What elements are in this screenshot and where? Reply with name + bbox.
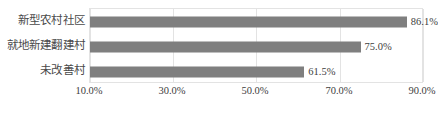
bar-row: 75.0% <box>90 34 422 59</box>
bar-row: 86.1% <box>90 9 422 34</box>
category-axis: 新型农村社区 就地新建翻建村 未改善村 <box>0 8 85 83</box>
bar[interactable] <box>90 41 361 52</box>
category-label: 未改善村 <box>0 65 85 77</box>
bar-value-label: 86.1% <box>407 16 438 27</box>
bar[interactable] <box>90 16 407 27</box>
category-label: 就地新建翻建村 <box>0 40 85 52</box>
category-tick-1: 就地新建翻建村 <box>0 33 85 58</box>
value-axis: 10.0% 30.0% 50.0% 70.0% 90.0% <box>89 86 423 106</box>
category-tick-0: 新型农村社区 <box>0 8 85 33</box>
plot-area: 86.1% 75.0% 61.5% <box>89 8 423 83</box>
bar-row: 61.5% <box>90 59 422 84</box>
category-label: 新型农村社区 <box>0 15 85 27</box>
x-tick-label: 70.0% <box>325 86 352 97</box>
x-tick-label: 50.0% <box>241 86 268 97</box>
bar-value-label: 61.5% <box>304 66 335 77</box>
x-tick-label: 10.0% <box>75 86 102 97</box>
x-tick-label: 90.0% <box>408 86 435 97</box>
x-tick-label: 30.0% <box>158 86 185 97</box>
bar[interactable] <box>90 66 304 77</box>
bar-value-label: 75.0% <box>361 41 392 52</box>
category-tick-2: 未改善村 <box>0 58 85 83</box>
